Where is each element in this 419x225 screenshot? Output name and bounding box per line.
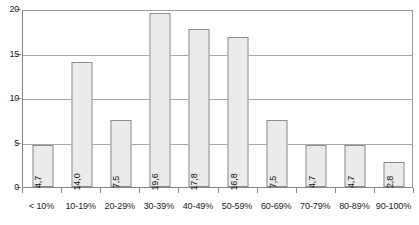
bar-chart: 05101520 4,714,07,519,617,816,87,54,74,7… bbox=[0, 0, 419, 225]
y-tick-label: 0 bbox=[1, 183, 19, 192]
bar-value-label: 2,8 bbox=[385, 176, 394, 188]
bar[interactable]: 4,7 bbox=[345, 145, 366, 187]
bar[interactable]: 19,6 bbox=[149, 13, 170, 187]
bar-value-label: 4,7 bbox=[346, 176, 355, 188]
bar-slot: 7,5 bbox=[258, 11, 297, 187]
bar[interactable]: 7,5 bbox=[267, 120, 288, 187]
x-tick-mark bbox=[413, 188, 414, 193]
bar[interactable]: 4,7 bbox=[306, 145, 327, 187]
x-tick-mark bbox=[139, 188, 140, 193]
x-tick-label: < 10% bbox=[22, 201, 61, 211]
bar-slot: 4,7 bbox=[23, 11, 62, 187]
bar-slot: 4,7 bbox=[336, 11, 375, 187]
x-tick-label: 70-79% bbox=[296, 201, 335, 211]
bar-slot: 14,0 bbox=[62, 11, 101, 187]
x-tick-label: 60-69% bbox=[257, 201, 296, 211]
y-tick-label: 20 bbox=[1, 5, 19, 14]
bar-value-label: 14,0 bbox=[73, 173, 82, 190]
bar[interactable]: 16,8 bbox=[228, 37, 249, 187]
x-tick-label: 90-100% bbox=[374, 201, 413, 211]
x-tick-label: 50-59% bbox=[218, 201, 257, 211]
x-tick-mark bbox=[374, 188, 375, 193]
x-tick-mark bbox=[178, 188, 179, 193]
x-tick-mark bbox=[22, 188, 23, 193]
bar-value-label: 4,7 bbox=[34, 176, 43, 188]
x-tick-mark bbox=[257, 188, 258, 193]
x-tick-mark bbox=[296, 188, 297, 193]
bar[interactable]: 14,0 bbox=[71, 62, 92, 187]
x-tick-mark bbox=[218, 188, 219, 193]
bar-value-label: 4,7 bbox=[307, 176, 316, 188]
bar-slot: 2,8 bbox=[375, 11, 414, 187]
bar-value-label: 7,5 bbox=[112, 176, 121, 188]
y-tick-label: 10 bbox=[1, 94, 19, 103]
x-tick-label: 20-29% bbox=[100, 201, 139, 211]
y-tick-label: 15 bbox=[1, 50, 19, 59]
x-tick-label: 30-39% bbox=[139, 201, 178, 211]
x-tick-mark bbox=[335, 188, 336, 193]
bar-value-label: 16,8 bbox=[229, 173, 238, 190]
bar[interactable]: 7,5 bbox=[110, 120, 131, 187]
plot-area: 4,714,07,519,617,816,87,54,74,72,8 bbox=[22, 10, 413, 188]
bar-slot: 16,8 bbox=[219, 11, 258, 187]
bar-slot: 7,5 bbox=[101, 11, 140, 187]
x-tick-label: 80-89% bbox=[335, 201, 374, 211]
y-axis: 05101520 bbox=[0, 0, 19, 225]
bar-slot: 17,8 bbox=[179, 11, 218, 187]
x-tick-mark bbox=[61, 188, 62, 193]
bar-slot: 4,7 bbox=[297, 11, 336, 187]
bar-value-label: 19,6 bbox=[151, 173, 160, 190]
x-tick-mark bbox=[100, 188, 101, 193]
x-tick-label: 40-49% bbox=[178, 201, 217, 211]
bar[interactable]: 4,7 bbox=[32, 145, 53, 187]
bar[interactable]: 2,8 bbox=[384, 162, 405, 187]
y-tick-label: 5 bbox=[1, 139, 19, 148]
x-tick-label: 10-19% bbox=[61, 201, 100, 211]
bar[interactable]: 17,8 bbox=[188, 29, 209, 187]
bar-value-label: 17,8 bbox=[190, 173, 199, 190]
bar-value-label: 7,5 bbox=[268, 176, 277, 188]
bar-slot: 19,6 bbox=[140, 11, 179, 187]
